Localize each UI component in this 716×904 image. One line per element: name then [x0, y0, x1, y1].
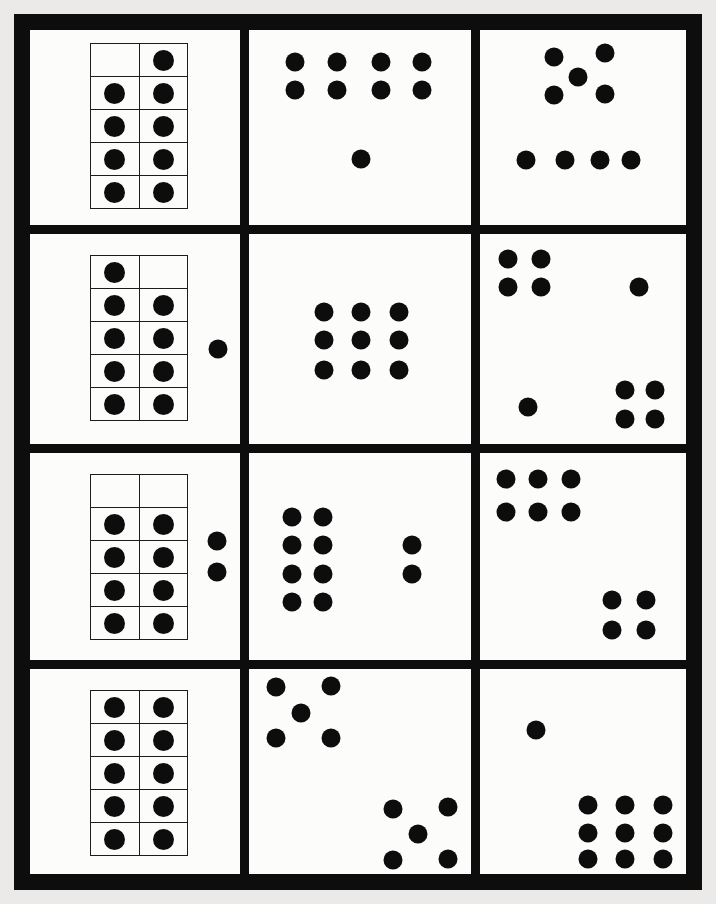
ten-frame-cell-empty: [140, 475, 189, 508]
dot-card-r2c2: [249, 234, 471, 444]
ten-frame-cell-filled: [91, 355, 140, 388]
dot-card-r4c3: [480, 669, 686, 874]
dot: [104, 328, 125, 349]
worksheet-page: [0, 0, 716, 904]
dot: [104, 697, 125, 718]
ten-frame-cell-filled: [140, 541, 189, 574]
dot: [104, 796, 125, 817]
dot: [390, 331, 409, 350]
dot: [104, 262, 125, 283]
dot: [207, 531, 226, 550]
dot: [104, 182, 125, 203]
ten-frame: [90, 474, 188, 640]
dot: [153, 613, 174, 634]
dot: [283, 507, 302, 526]
ten-frame: [90, 690, 188, 856]
dot: [562, 502, 581, 521]
dot: [384, 800, 403, 819]
dot: [578, 796, 597, 815]
dot: [153, 149, 174, 170]
ten-frame-cell-filled: [140, 322, 189, 355]
dot: [596, 84, 615, 103]
dot: [616, 824, 635, 843]
dot: [283, 535, 302, 554]
dot: [153, 580, 174, 601]
dot: [104, 580, 125, 601]
dot: [104, 83, 125, 104]
dot: [153, 50, 174, 71]
ten-frame-cell-filled: [140, 143, 189, 176]
dot: [637, 620, 656, 639]
dot: [315, 331, 334, 350]
dot: [153, 829, 174, 850]
dot: [621, 151, 640, 170]
dot: [321, 728, 340, 747]
dot: [267, 677, 286, 696]
dot: [207, 563, 226, 582]
dot: [646, 381, 665, 400]
ten-frame-cell-filled: [91, 790, 140, 823]
dot: [412, 81, 431, 100]
dot: [283, 593, 302, 612]
dot: [438, 798, 457, 817]
dot: [104, 295, 125, 316]
dot: [153, 116, 174, 137]
dot-card-r4c2: [249, 669, 471, 874]
dot: [531, 249, 550, 268]
ten-frame-cell-filled: [91, 823, 140, 856]
dot: [637, 590, 656, 609]
ten-frame-cell-empty: [140, 256, 189, 289]
ten-frame-cell-filled: [91, 574, 140, 607]
dot: [390, 361, 409, 380]
dot-card-r1c3: [480, 30, 686, 225]
dot: [438, 850, 457, 869]
dot: [545, 47, 564, 66]
dot: [596, 44, 615, 63]
dot: [153, 182, 174, 203]
dot: [267, 728, 286, 747]
dot: [390, 302, 409, 321]
dot: [569, 67, 588, 86]
dot: [616, 381, 635, 400]
dot: [352, 361, 371, 380]
dot: [104, 361, 125, 382]
ten-frame: [90, 255, 188, 421]
dot: [518, 398, 537, 417]
ten-frame-cell-empty: [91, 475, 140, 508]
dot: [616, 410, 635, 429]
dot-card-r3c3: [480, 453, 686, 660]
dot: [402, 565, 421, 584]
ten-frame-cell-filled: [140, 691, 189, 724]
dot: [578, 850, 597, 869]
ten-frame-cell-filled: [91, 691, 140, 724]
dot-card-r1c1: [30, 30, 240, 225]
dot: [313, 565, 332, 584]
dot: [616, 850, 635, 869]
ten-frame: [90, 43, 188, 209]
dot-card-r4c1: [30, 669, 240, 874]
dot: [313, 535, 332, 554]
dot: [556, 151, 575, 170]
dot: [208, 340, 227, 359]
dot: [104, 730, 125, 751]
dot: [653, 850, 672, 869]
dot: [384, 851, 403, 870]
ten-frame-cell-filled: [140, 757, 189, 790]
dot: [153, 328, 174, 349]
dot: [285, 52, 304, 71]
ten-frame-cell-filled: [140, 790, 189, 823]
dot: [153, 697, 174, 718]
ten-frame-cell-filled: [91, 541, 140, 574]
dot: [313, 593, 332, 612]
ten-frame-cell-filled: [140, 77, 189, 110]
dot: [562, 470, 581, 489]
worksheet-grid: [14, 14, 702, 890]
ten-frame-cell-filled: [91, 724, 140, 757]
ten-frame-cell-filled: [91, 757, 140, 790]
dot: [153, 394, 174, 415]
dot: [352, 331, 371, 350]
dot: [578, 824, 597, 843]
dot-card-r2c1: [30, 234, 240, 444]
dot: [104, 547, 125, 568]
dot: [591, 151, 610, 170]
